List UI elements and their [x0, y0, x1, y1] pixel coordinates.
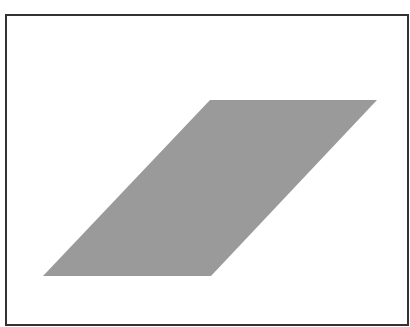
shape-layer	[0, 0, 410, 327]
parallelogram-shape	[43, 100, 377, 276]
diagram-canvas	[0, 0, 410, 327]
